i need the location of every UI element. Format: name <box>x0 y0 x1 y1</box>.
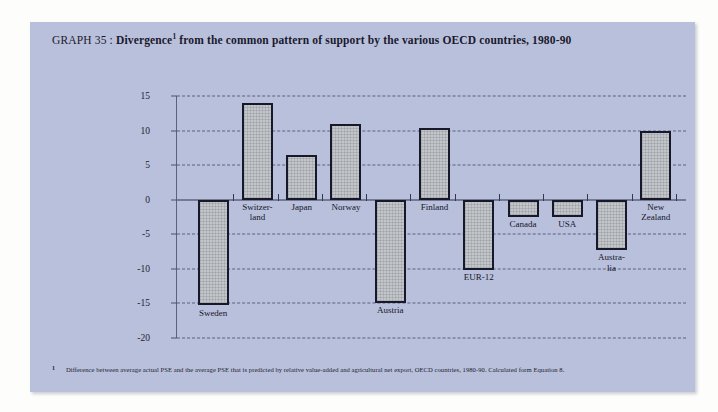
bar <box>242 103 273 200</box>
y-axis-line <box>176 96 177 338</box>
bar-category-label: Austra- lia <box>581 252 641 273</box>
bar-category-label: New Zealand <box>626 202 686 223</box>
y-axis-tick-mark <box>171 338 177 339</box>
bar <box>286 155 317 199</box>
bar <box>463 200 494 270</box>
y-axis-tick-mark <box>171 199 177 200</box>
y-axis-tick-mark <box>171 96 177 97</box>
y-axis-tick-label: 5 <box>108 160 150 170</box>
bar <box>375 200 406 304</box>
y-axis-tick-label: 15 <box>108 91 150 101</box>
y-axis-tick-label: -10 <box>108 264 150 274</box>
bar-category-label: Norway <box>316 202 376 213</box>
y-axis-tick-label: 0 <box>108 195 150 205</box>
bar <box>640 131 671 200</box>
footnote-text: Difference between average actual PSE an… <box>66 365 682 374</box>
x-axis-tick-mark <box>233 194 234 201</box>
title-prefix: GRAPH 35 : <box>52 34 116 46</box>
y-axis-tick-label: -5 <box>108 229 150 239</box>
bar-category-label: EUR-12 <box>449 272 509 283</box>
gridline <box>177 303 686 304</box>
page-background: GRAPH 35 : Divergence1 from the common p… <box>0 0 718 412</box>
bar <box>198 200 229 306</box>
y-axis-tick-label: 10 <box>108 126 150 136</box>
graph-panel: GRAPH 35 : Divergence1 from the common p… <box>30 22 695 392</box>
x-axis-tick-mark <box>410 194 411 201</box>
x-axis-tick-mark <box>455 194 456 201</box>
y-axis-tick-mark <box>171 130 177 131</box>
bar <box>330 124 361 200</box>
x-axis-tick-mark <box>499 194 500 201</box>
x-axis-tick-mark <box>676 194 677 201</box>
title-rest: from the common pattern of support by th… <box>176 34 571 46</box>
gridline <box>177 338 686 339</box>
bar <box>508 200 539 217</box>
y-axis-tick-mark <box>171 268 177 269</box>
y-axis-tick-mark <box>171 165 177 166</box>
title-bold-part: Divergence <box>116 34 172 46</box>
bar <box>419 128 450 199</box>
x-axis-tick-mark <box>632 194 633 201</box>
x-axis-tick-mark <box>322 194 323 201</box>
bar <box>596 200 627 250</box>
y-axis-tick-label: -20 <box>108 333 150 343</box>
footnote-marker: 1 <box>52 364 55 373</box>
bar-category-label: Finland <box>404 202 464 213</box>
x-axis-tick-mark <box>587 194 588 201</box>
x-axis-tick-mark <box>278 194 279 201</box>
y-axis-tick-label: -15 <box>108 298 150 308</box>
page-title: GRAPH 35 : Divergence1 from the common p… <box>52 32 571 46</box>
bar-category-label: Sweden <box>183 308 243 319</box>
footnote: 1 Difference between average actual PSE … <box>52 365 682 374</box>
y-axis-tick-mark <box>171 234 177 235</box>
x-axis-tick-mark <box>366 194 367 201</box>
bar-category-label: Austria <box>360 305 420 316</box>
x-axis-tick-mark <box>543 194 544 201</box>
chart-plot-area: 151050-5-10-15-20 SwedenSwitzer- landJap… <box>146 88 686 352</box>
bar <box>552 200 583 217</box>
y-axis-tick-mark <box>171 303 177 304</box>
gridline <box>177 96 686 97</box>
bar-category-label: USA <box>537 219 597 230</box>
